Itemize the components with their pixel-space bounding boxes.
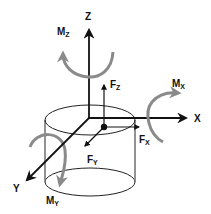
- force-fy: FY: [85, 127, 104, 166]
- axis-x: X: [88, 113, 201, 124]
- force-fy-label: FY: [87, 154, 98, 166]
- axis-y: Y: [13, 118, 89, 194]
- axis-x-label: X: [194, 113, 201, 124]
- axis-y-line: [27, 118, 89, 180]
- cylinder-bottom-ellipse: [45, 168, 135, 196]
- force-fz-label: FZ: [110, 79, 121, 91]
- moment-mz: MZ: [57, 26, 113, 77]
- force-fx-label: FX: [139, 134, 150, 146]
- axis-z-label: Z: [85, 11, 91, 22]
- moment-mx: MX: [148, 78, 185, 142]
- force-fz: FZ: [104, 79, 121, 126]
- moment-my-label: MY: [46, 195, 59, 207]
- moment-mx-label: MX: [172, 78, 185, 90]
- force-fx: FX: [104, 127, 150, 146]
- force-moment-diagram: Z MZ FZ X MX FX FY Y MY: [0, 0, 211, 214]
- force-fy-arrow: [85, 127, 104, 146]
- moment-mz-label: MZ: [57, 26, 70, 38]
- axis-z: Z: [85, 11, 91, 118]
- moment-mz-arc-icon: [63, 52, 113, 77]
- cylinder-top-ellipse: [45, 105, 135, 135]
- axis-y-label: Y: [13, 183, 20, 194]
